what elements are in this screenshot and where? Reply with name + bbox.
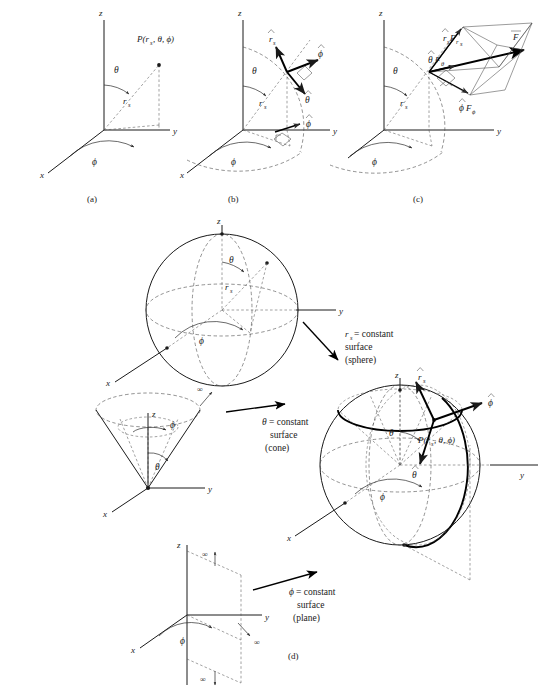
svg-text:ϕ: ϕ bbox=[289, 587, 294, 597]
cone-theta-arc bbox=[148, 453, 168, 461]
panel-c: z y bbox=[330, 8, 532, 204]
svg-text:s: s bbox=[460, 40, 463, 47]
svg-text:r: r bbox=[225, 282, 229, 292]
panel-b-unit-phi-vector bbox=[287, 60, 318, 72]
combined-pole-marker bbox=[398, 388, 402, 392]
svg-text:r: r bbox=[123, 96, 127, 106]
cone-z-label: z bbox=[151, 409, 156, 419]
panel-b: z y x θ ϕ r s bbox=[179, 8, 337, 204]
sphere-theta-label: θ bbox=[229, 255, 234, 265]
panel-c-phi-label: ϕ bbox=[372, 157, 377, 167]
panel-c-radial-label: r s bbox=[400, 98, 408, 110]
svg-text:ϕ: ϕ bbox=[318, 49, 323, 59]
panel-b-ground-unit-phi-label: ϕ bbox=[306, 115, 312, 129]
panel-a-theta-arc bbox=[104, 85, 129, 94]
svg-text:surface: surface bbox=[345, 342, 372, 352]
panel-b-ground-arc bbox=[187, 152, 302, 171]
panel-a-y-label: y bbox=[172, 126, 177, 136]
panel-c-radial-line bbox=[384, 38, 452, 130]
combined-unit-r-label: r s bbox=[417, 368, 426, 384]
sphere-x-label: x bbox=[105, 378, 110, 388]
combined-theta-arc bbox=[400, 432, 420, 441]
panel-b-theta-arc bbox=[243, 86, 266, 96]
sphere-x-axis bbox=[115, 348, 167, 382]
plane-edge-bottom bbox=[187, 659, 241, 683]
svg-text:surface: surface bbox=[270, 430, 297, 440]
panel-a-theta-label: θ bbox=[114, 65, 119, 75]
svg-text:ϕ: ϕ bbox=[472, 108, 476, 115]
combined-x-axis bbox=[295, 503, 345, 536]
panel-c-phi-arc bbox=[350, 142, 412, 156]
panel-c-ground-arc bbox=[330, 152, 443, 173]
combined-theta-label: θ bbox=[389, 428, 394, 438]
plane-infinity-label-bottom: ∞ bbox=[200, 675, 206, 684]
panel-a-caption: (a) bbox=[87, 194, 97, 204]
svg-text:(cone): (cone) bbox=[265, 443, 289, 454]
panel-a-phi-arc bbox=[70, 141, 134, 156]
sphere-x-inner bbox=[167, 310, 222, 348]
cone-ruling-1 bbox=[120, 419, 148, 488]
panel-b-phi-label: ϕ bbox=[231, 157, 236, 167]
panel-a-ground-projection bbox=[104, 125, 159, 130]
combined-plane-edge-1 bbox=[404, 545, 470, 580]
svg-text:P(r: P(r bbox=[136, 34, 149, 44]
panel-d-combined: z y x r s ϕ θ bbox=[286, 368, 538, 580]
svg-text:s: s bbox=[423, 377, 426, 384]
svg-text:θ: θ bbox=[428, 55, 433, 65]
sphere-drop-line bbox=[250, 263, 267, 333]
svg-text:θ: θ bbox=[262, 417, 267, 427]
svg-text:= constant: = constant bbox=[269, 417, 309, 427]
sphere-callout-arrow bbox=[303, 322, 338, 360]
panel-b-z-label: z bbox=[237, 8, 242, 18]
panel-b-meridian-arc bbox=[243, 47, 304, 152]
cone-theta-label: θ bbox=[155, 462, 160, 472]
svg-text:s: s bbox=[405, 103, 408, 110]
panel-c-ground-projection bbox=[384, 130, 432, 146]
panel-b-x-label: x bbox=[179, 170, 184, 180]
svg-text:s: s bbox=[264, 103, 267, 110]
panel-c-comp-r-hat-icon bbox=[442, 29, 448, 32]
panel-a-phi-label: ϕ bbox=[92, 157, 97, 167]
panel-b-phi-arc bbox=[209, 142, 271, 156]
panel-a-point-marker bbox=[157, 63, 161, 67]
panel-a-radial-line bbox=[104, 65, 159, 130]
svg-text:θ: θ bbox=[412, 470, 417, 480]
panel-b-ground-unit-phi-hat-icon bbox=[306, 115, 312, 118]
svg-text:P(r: P(r bbox=[417, 435, 430, 445]
panel-b-radial-label: r s bbox=[259, 98, 267, 110]
panel-b-radial-line bbox=[243, 40, 310, 130]
svg-text:r: r bbox=[345, 329, 349, 339]
sphere-ground-projection bbox=[222, 310, 250, 333]
sphere-x-marker bbox=[165, 346, 169, 350]
svg-text:F: F bbox=[465, 103, 472, 113]
combined-x-marker bbox=[343, 501, 347, 505]
panel-b-unit-theta-label: θ bbox=[305, 91, 311, 105]
sphere-phi-label: ϕ bbox=[199, 336, 204, 346]
panel-c-comp-phi-hat-icon bbox=[459, 99, 465, 102]
svg-text:r: r bbox=[400, 98, 404, 108]
cone-callout-arrow bbox=[226, 404, 285, 412]
panel-b-unit-phi-label: ϕ bbox=[318, 45, 324, 59]
panel-c-comp-theta-hat-icon bbox=[428, 51, 434, 54]
svg-text:F: F bbox=[434, 55, 441, 65]
svg-text:s: s bbox=[273, 39, 276, 46]
cone-apex-marker bbox=[146, 486, 150, 490]
svg-text:ϕ: ϕ bbox=[306, 119, 311, 129]
svg-text:ϕ: ϕ bbox=[459, 103, 464, 113]
svg-text:, θ, ϕ): , θ, ϕ) bbox=[153, 34, 174, 44]
sphere-callout-text: r s = constant surface (sphere) bbox=[345, 329, 394, 366]
spherical-coordinates-figure: z y x θ ϕ r s P(r s , θ, ϕ) (a) bbox=[0, 0, 558, 693]
svg-text:= constant: = constant bbox=[296, 587, 336, 597]
svg-text:(sphere): (sphere) bbox=[345, 355, 376, 366]
cone-callout-text: θ = constant surface (cone) bbox=[262, 417, 309, 454]
sphere-radial-label: r s bbox=[225, 282, 233, 294]
plane-edge-middle bbox=[187, 615, 241, 640]
combined-x-inner bbox=[345, 465, 400, 503]
panel-b-ground-projection bbox=[243, 130, 290, 146]
panel-b-ground-unit-phi-vector bbox=[275, 124, 300, 132]
combined-phi-label: ϕ bbox=[380, 492, 385, 502]
svg-text:θ: θ bbox=[305, 95, 310, 105]
sphere-y-label: y bbox=[338, 306, 343, 316]
svg-text:surface: surface bbox=[297, 600, 324, 610]
panel-b-unit-theta-hat-icon bbox=[305, 91, 311, 94]
